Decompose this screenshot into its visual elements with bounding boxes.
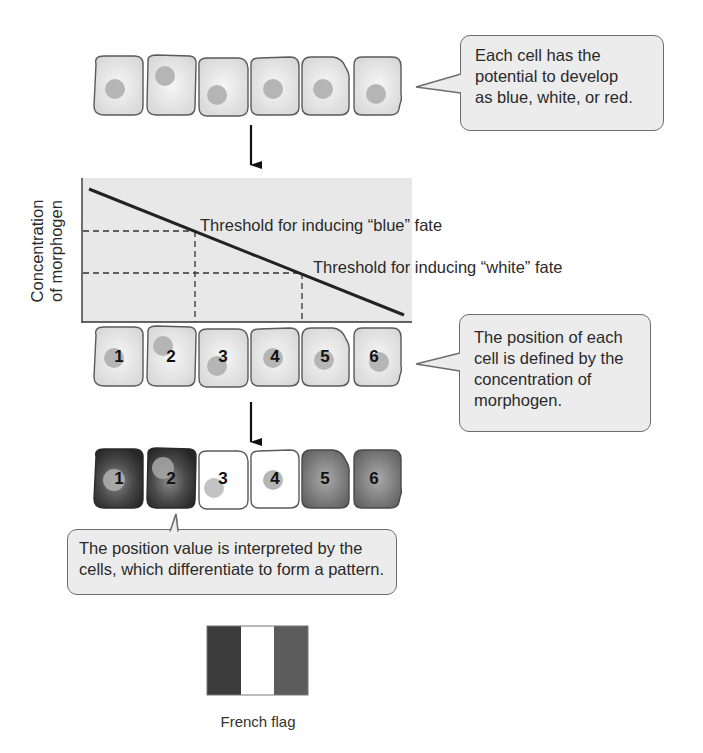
callout-line: morphogen. xyxy=(474,390,650,411)
cell-number: 3 xyxy=(213,347,233,367)
callout-positional-info: The position of each cell is defined by … xyxy=(459,314,651,432)
y-axis-label: Concentration of morphogen xyxy=(14,178,80,324)
cell xyxy=(147,55,196,115)
morphogen-plot xyxy=(82,178,412,323)
flag-stripe-blue xyxy=(207,626,241,695)
callout-line: The position value is interpreted by the xyxy=(79,538,396,559)
cell-number: 5 xyxy=(315,347,335,367)
cell-number: 4 xyxy=(265,469,285,489)
cell-number: 1 xyxy=(109,347,129,367)
plot-area xyxy=(83,178,412,322)
flag-stripe-white xyxy=(241,626,274,695)
callout-line: concentration of xyxy=(474,369,650,390)
cell-number: 1 xyxy=(109,469,129,489)
callout-line: The position of each xyxy=(474,327,650,348)
callout-line: cell is defined by the xyxy=(474,348,650,369)
y-axis-label-line: Concentration xyxy=(28,178,47,324)
cell xyxy=(251,57,299,115)
callout-line: potential to develop xyxy=(475,66,663,87)
cell xyxy=(354,57,401,115)
blue-threshold-label: Threshold for inducing “blue” fate xyxy=(200,216,442,235)
french-flag xyxy=(207,626,308,695)
cell-number: 2 xyxy=(161,347,181,367)
callout-interpretation: The position value is interpreted by the… xyxy=(67,529,397,595)
cell-number: 6 xyxy=(364,347,384,367)
cell-row-differentiated xyxy=(94,448,401,509)
callout-line: as blue, white, or red. xyxy=(475,87,663,108)
cell xyxy=(302,57,349,115)
cell-row-initial xyxy=(94,55,401,116)
y-axis-label-line: of morphogen xyxy=(47,178,66,324)
flag-caption: French flag xyxy=(207,713,309,730)
cell xyxy=(94,56,143,115)
callout-line: cells, which differentiate to form a pat… xyxy=(79,559,396,580)
cell-row-positional xyxy=(94,326,401,387)
cell-number: 3 xyxy=(213,469,233,489)
callout-line: Each cell has the xyxy=(475,45,663,66)
flag-stripe-red xyxy=(274,626,308,695)
cell-number: 4 xyxy=(265,347,285,367)
cell-number: 2 xyxy=(161,469,181,489)
callout-cell-potential: Each cell has the potential to develop a… xyxy=(460,35,664,131)
cell-number: 5 xyxy=(315,469,335,489)
cell-number: 6 xyxy=(364,469,384,489)
white-threshold-label: Threshold for inducing “white” fate xyxy=(313,258,562,277)
cell xyxy=(199,58,248,116)
